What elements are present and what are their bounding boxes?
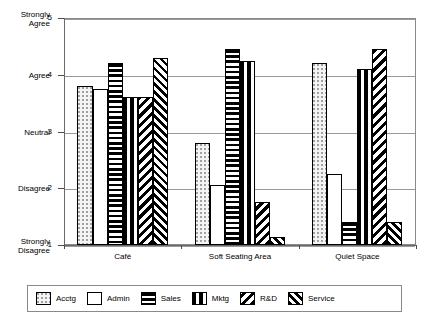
legend-swatch-herring-icon [288,292,303,305]
bar-sales-soft-seating-area [225,49,240,245]
legend-swatch-dots-icon [36,292,51,305]
x-tick-mark-3 [416,245,417,249]
bar-acctg-soft-seating-area [195,143,210,245]
bar-acctg-quiet-space [312,63,327,245]
legend-items: AcctgAdminSalesMktgR&DService [28,286,401,311]
bar-r-d-caf- [138,97,153,245]
x-category-label-soft-seating-area: Soft Seating Area [181,252,298,261]
legend-swatch-vbars-icon [192,292,207,305]
x-tick-mark-2 [299,245,300,249]
legend-label: Mktg [212,294,229,303]
legend-item-acctg[interactable]: Acctg [36,292,76,305]
bar-mktg-caf- [123,97,138,245]
legend: AcctgAdminSalesMktgR&DService [27,285,402,312]
bar-r-d-quiet-space [372,49,387,245]
legend-item-service[interactable]: Service [288,292,335,305]
bar-mktg-quiet-space [357,69,372,245]
y-axis-label-5: Strongly Agree [0,10,50,28]
x-category-label-quiet-space: Quiet Space [299,252,416,261]
legend-item-admin[interactable]: Admin [87,292,130,305]
legend-swatch-diag-back-icon [240,292,255,305]
legend-swatch-hbars-icon [141,292,156,305]
y-axis-label-1: Strongly Disagree [0,237,50,255]
x-tick-mark-1 [181,245,182,249]
bar-admin-soft-seating-area [210,185,225,245]
legend-swatch-plain-icon [87,292,102,305]
y-axis-label-4: Agree [0,71,50,80]
legend-label: Service [308,294,335,303]
bar-admin-caf- [93,89,108,245]
bar-sales-quiet-space [342,222,357,245]
bar-service-soft-seating-area [270,237,285,246]
legend-item-sales[interactable]: Sales [141,292,181,305]
legend-label: Sales [161,294,181,303]
x-axis-line [64,245,416,246]
legend-item-r-d[interactable]: R&D [240,292,277,305]
bar-service-quiet-space [387,222,402,245]
y-axis-label-3: Neutral [0,128,50,137]
x-category-label-caf-: Café [64,252,181,261]
bar-sales-caf- [108,63,123,245]
bar-mktg-soft-seating-area [240,61,255,245]
gridline-1 [65,246,415,247]
legend-label: R&D [260,294,277,303]
x-tick-mark-0 [64,245,65,249]
legend-item-mktg[interactable]: Mktg [192,292,229,305]
bar-service-caf- [153,58,168,245]
legend-label: Acctg [56,294,76,303]
bar-acctg-caf- [77,86,92,245]
y-axis-label-2: Disagree [0,184,50,193]
bar-chart: 1Strongly Disagree2Disagree3Neutral4Agre… [0,0,429,326]
legend-label: Admin [107,294,130,303]
bar-admin-quiet-space [327,174,342,245]
bars-layer [64,18,416,245]
bar-r-d-soft-seating-area [255,202,270,245]
